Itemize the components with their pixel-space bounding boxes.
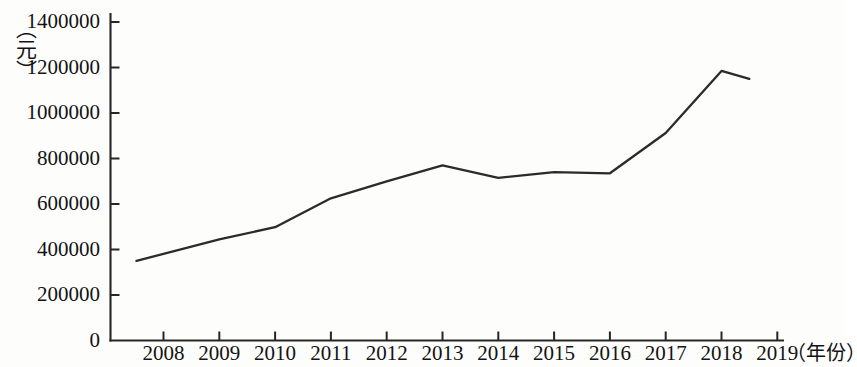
x-axis-ticks <box>164 332 778 341</box>
x-axis-unit-label: （年份） <box>786 341 857 365</box>
axes <box>111 14 784 341</box>
y-axis-ticks <box>111 22 120 295</box>
data-series-line <box>137 71 750 261</box>
